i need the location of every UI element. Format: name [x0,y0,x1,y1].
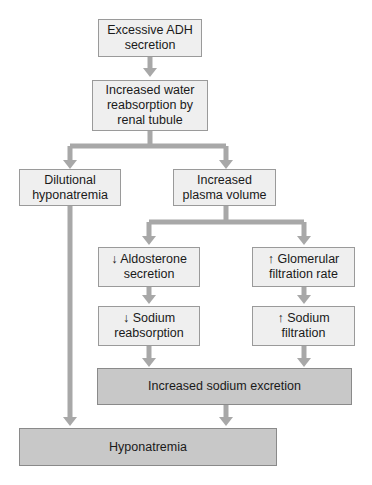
connector-arrows [0,0,372,485]
node-label: ↑ Glomerular filtration rate [268,252,340,282]
node-water-reabsorption: Increased water reabsorption by renal tu… [92,80,208,131]
node-label: Hyponatremia [109,440,187,455]
node-aldosterone: ↓ Aldosterone secretion [98,247,200,287]
node-plasma-volume: Increased plasma volume [173,169,276,206]
node-gfr: ↑ Glomerular filtration rate [252,247,355,287]
node-dilutional-hyponatremia: Dilutional hyponatremia [19,169,121,206]
node-label: ↑ Sodium filtration [277,311,329,341]
node-excessive-adh: Excessive ADH secretion [98,19,202,57]
node-label: Dilutional hyponatremia [32,173,108,203]
node-label: Increased sodium excretion [148,379,301,394]
node-sodium-reabsorption: ↓ Sodium reabsorption [98,306,200,346]
node-label: Increased water reabsorption by renal tu… [106,83,195,128]
node-label: ↓ Sodium reabsorption [114,311,184,341]
node-label: ↓ Aldosterone secretion [111,252,187,282]
node-sodium-filtration: ↑ Sodium filtration [252,306,355,346]
node-hyponatremia: Hyponatremia [19,428,277,466]
node-sodium-excretion: Increased sodium excretion [97,368,352,405]
node-label: Excessive ADH secretion [107,23,192,53]
node-label: Increased plasma volume [182,173,266,203]
